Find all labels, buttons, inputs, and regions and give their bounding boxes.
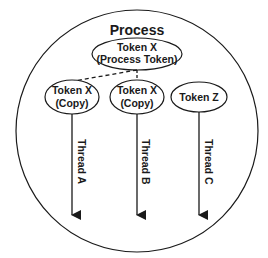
token-a-line1: Token X <box>52 84 92 96</box>
token-node-b: Token X (Copy) <box>110 80 164 114</box>
token-b-line2: (Copy) <box>120 97 153 109</box>
thread-c-label: Thread C <box>203 139 215 185</box>
process-token-line2: (Process Token) <box>97 53 178 65</box>
thread-a-label: Thread A <box>76 139 88 185</box>
process-token-line1: Token X <box>117 41 157 53</box>
process-token-diagram: Process Token X (Process Token) Token X … <box>0 0 268 258</box>
token-node-c: Token Z <box>171 82 227 112</box>
token-a-line2: (Copy) <box>55 97 88 109</box>
thread-b-label: Thread B <box>140 139 152 185</box>
token-node-a: Token X (Copy) <box>45 80 99 114</box>
process-label: Process <box>110 22 165 38</box>
copy-edge-a <box>74 70 137 81</box>
token-b-line1: Token X <box>117 84 157 96</box>
token-c-line1: Token Z <box>179 91 219 103</box>
process-token-node: Token X (Process Token) <box>92 38 182 70</box>
